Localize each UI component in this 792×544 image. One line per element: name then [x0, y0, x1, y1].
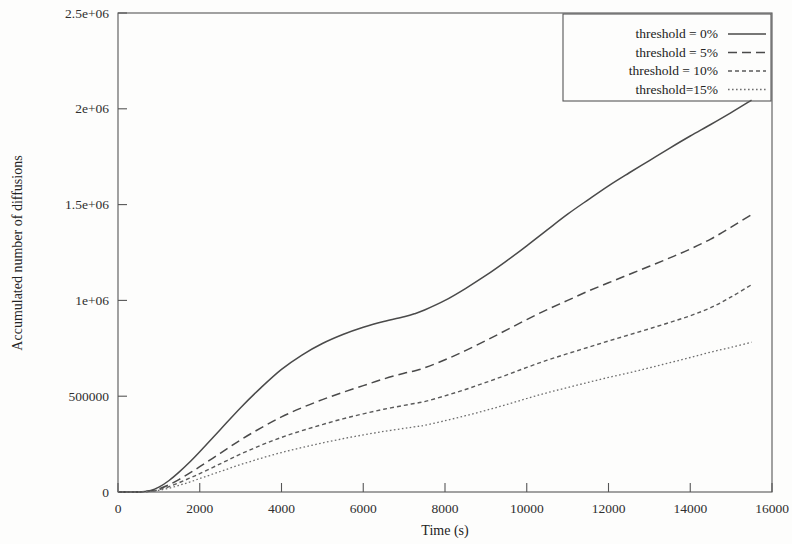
x-tick-label: 10000	[510, 501, 544, 516]
y-tick-label: 0	[102, 485, 109, 500]
x-tick-label: 4000	[268, 501, 295, 516]
y-tick-label: 2e+06	[75, 101, 109, 116]
legend-label-0: threshold = 0%	[635, 26, 718, 41]
series-line-0	[118, 100, 752, 492]
chart-figure: 05000001e+061.5e+062e+062.5e+06 02000400…	[0, 0, 792, 544]
y-axis-title: Accumulated number of diffusions	[10, 155, 25, 350]
series-line-2	[118, 285, 752, 492]
legend-label-3: threshold=15%	[635, 82, 718, 97]
x-tick-label: 8000	[432, 501, 459, 516]
x-axis-title: Time (s)	[421, 523, 469, 539]
series-line-1	[118, 215, 752, 493]
x-axis-ticks: 0200040006000800010000120001400016000	[115, 483, 790, 516]
legend-label-1: threshold = 5%	[635, 45, 718, 60]
legend-entries: threshold = 0%threshold = 5%threshold = …	[629, 26, 766, 97]
y-tick-label: 2.5e+06	[65, 6, 109, 21]
line-chart: 05000001e+061.5e+062e+062.5e+06 02000400…	[0, 0, 792, 544]
series-line-3	[118, 342, 752, 492]
chart-legend: threshold = 0%threshold = 5%threshold = …	[563, 14, 771, 101]
x-tick-label: 16000	[755, 501, 789, 516]
x-tick-label: 6000	[350, 501, 377, 516]
x-tick-label: 14000	[673, 501, 707, 516]
x-tick-label: 0	[115, 501, 122, 516]
x-tick-label: 12000	[592, 501, 626, 516]
y-tick-label: 1.5e+06	[65, 197, 109, 212]
x-tick-label: 2000	[186, 501, 213, 516]
legend-label-2: threshold = 10%	[629, 63, 718, 78]
y-tick-label: 500000	[69, 389, 110, 404]
series-lines	[118, 100, 752, 492]
y-tick-label: 1e+06	[75, 293, 109, 308]
